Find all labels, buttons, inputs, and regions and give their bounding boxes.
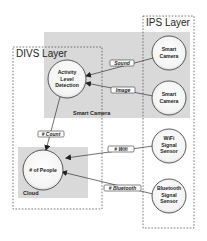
svg-text:WiFi: WiFi [164,135,175,141]
edge-label-wifi: # Wifi [108,146,134,152]
svg-text:# Count: # Count [42,131,61,137]
cloud-region-label: Cloud [23,190,39,196]
node-bluetooth-signal-sensor: Bluetooth Signal Sensor [152,179,186,213]
svg-text:Image: Image [116,87,131,93]
svg-text:Sound: Sound [114,60,130,66]
svg-text:Level: Level [60,76,74,82]
edge-label-count: # Count [38,131,64,137]
svg-text:Sensor: Sensor [160,198,178,204]
node-wifi-signal-sensor: WiFi Signal Sensor [152,129,186,163]
edge-label-image: Image [111,87,135,93]
svg-text:Camera: Camera [159,53,178,59]
svg-text:Camera: Camera [159,98,178,104]
node-activity-level-detection: Activity Level Detection [48,60,86,98]
svg-text:# Wifi: # Wifi [114,146,128,152]
divs-layer-label: DIVS Layer [16,48,68,59]
svg-text:# of People: # of People [29,167,57,173]
svg-text:Signal: Signal [161,142,177,148]
node-number-of-people: # of People [23,150,63,190]
architecture-diagram: Smart Camera Cloud DIVS Layer IPS Layer … [0,0,207,241]
svg-text:Detection: Detection [55,82,79,88]
edge-label-bluetooth: # Bluetooth [104,185,141,191]
edge-label-sound: Sound [110,60,134,66]
svg-text:Sensor: Sensor [160,148,178,154]
node-smart-camera-2: Smart Camera [152,81,186,115]
node-smart-camera-1: Smart Camera [152,36,186,70]
svg-text:Smart: Smart [162,91,177,97]
svg-text:Smart: Smart [162,46,177,52]
svg-text:Activity: Activity [58,69,77,75]
svg-text:# Bluetooth: # Bluetooth [109,185,137,191]
svg-text:Bluetooth: Bluetooth [157,185,181,191]
ips-layer-label: IPS Layer [146,17,191,28]
svg-text:Signal: Signal [161,192,177,198]
smart-camera-region-label: Smart Camera [73,110,111,116]
